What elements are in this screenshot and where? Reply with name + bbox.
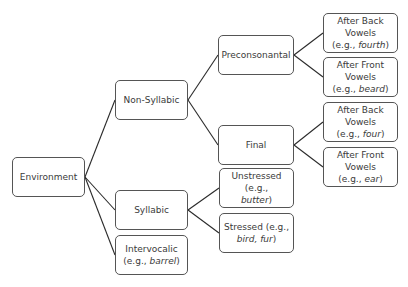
node-label-line1: After Back (337, 16, 383, 26)
node-text: After Front Vowels (e.g., ear) (337, 149, 384, 185)
example-word: ear (364, 174, 379, 184)
example-prefix: (e.g., (333, 84, 359, 94)
node-final: Final (218, 125, 294, 165)
node-label-line1: After Front (337, 150, 384, 160)
node-label-line2: Vowels (345, 72, 376, 82)
edge-syllabic-stressed (188, 210, 219, 233)
node-label: Intervocalic (125, 244, 177, 254)
phonological-environment-tree: Environment Non-Syllabic Syllabic Interv… (0, 0, 408, 287)
example-suffix: ) (386, 40, 390, 50)
node-label-line1: After Back (337, 105, 383, 115)
node-label: Syllabic (134, 204, 169, 216)
node-label: Final (246, 139, 267, 151)
node-preconsonantal: Preconsonantal (218, 35, 294, 75)
node-unstressed: Unstressed (e.g., butter) (219, 168, 294, 208)
edge-environment-intervocalic (85, 177, 115, 255)
edge-syllabic-unstressed (188, 188, 219, 210)
example-suffix: ) (385, 84, 389, 94)
edge-environment-syllabic (85, 177, 115, 210)
example-word: fourth (358, 40, 385, 50)
example-prefix: (e.g., (338, 174, 364, 184)
node-label: Non-Syllabic (124, 94, 180, 106)
edge-final-after-front (294, 145, 323, 167)
example-suffix: ) (269, 195, 273, 205)
example-suffix: ) (379, 174, 383, 184)
example-suffix: ) (176, 256, 180, 266)
node-stressed: Stressed (e.g., bird, fur) (219, 213, 294, 253)
edge-non-syllabic-final (188, 100, 218, 145)
node-label: Preconsonantal (221, 49, 290, 61)
node-label-line2: Vowels (345, 28, 376, 38)
example-prefix: (e.g., (337, 129, 363, 139)
edge-preconsonantal-after-front (294, 55, 323, 77)
node-preconsonantal-after-back-vowels: After Back Vowels (e.g., fourth) (323, 13, 398, 53)
example-word: beard (359, 84, 385, 94)
example-prefix: (e.g., (332, 40, 358, 50)
node-text: Intervocalic (e.g., barrel) (123, 243, 179, 267)
node-label-line2: Vowels (345, 117, 376, 127)
example-word: bird, fur (237, 234, 273, 244)
node-label: Stressed (e.g., (224, 222, 289, 232)
node-text: After Back Vowels (e.g., four) (337, 104, 385, 140)
example-prefix: (e.g., (123, 256, 149, 266)
example-word: butter (241, 195, 269, 205)
node-text: Stressed (e.g., bird, fur) (224, 221, 289, 245)
edge-preconsonantal-after-back (294, 33, 323, 55)
edge-final-after-back (294, 122, 323, 145)
example-word: barrel (150, 256, 177, 266)
node-text: After Back Vowels (e.g., fourth) (332, 15, 389, 51)
example-word: four (363, 129, 381, 139)
node-final-after-front-vowels: After Front Vowels (e.g., ear) (323, 147, 398, 187)
node-non-syllabic: Non-Syllabic (115, 80, 188, 120)
node-syllabic: Syllabic (115, 190, 188, 230)
node-intervocalic: Intervocalic (e.g., barrel) (115, 235, 188, 275)
edge-non-syllabic-preconsonantal (188, 55, 218, 100)
node-label: Environment (20, 171, 77, 183)
node-label-line1: After Front (337, 60, 384, 70)
node-environment: Environment (12, 157, 85, 197)
node-final-after-back-vowels: After Back Vowels (e.g., four) (323, 102, 398, 142)
node-text: After Front Vowels (e.g., beard) (333, 59, 389, 95)
edge-environment-non-syllabic (85, 100, 115, 177)
node-text: Unstressed (e.g., butter) (223, 170, 290, 206)
node-label: Unstressed (e.g., (231, 171, 281, 193)
example-suffix: ) (381, 129, 385, 139)
node-label-line2: Vowels (345, 162, 376, 172)
node-preconsonantal-after-front-vowels: After Front Vowels (e.g., beard) (323, 57, 398, 97)
example-suffix: ) (273, 234, 277, 244)
